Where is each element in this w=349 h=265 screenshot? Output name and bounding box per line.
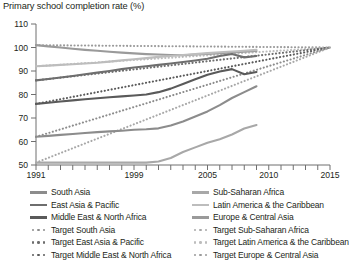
chart-title: Primary school completion rate (%) (3, 1, 144, 11)
data-line (36, 69, 257, 104)
legend-item[interactable]: Europe & Central Asia (192, 211, 349, 224)
y-axis: 5060708090100110 (14, 19, 36, 170)
legend-column-right: Sub-Saharan AfricaLatin America & the Ca… (192, 186, 349, 262)
legend-item[interactable]: Target East Asia & Pacific (30, 236, 171, 249)
legend-item-label: South Asia (47, 186, 90, 199)
plot-area: 5060708090100110 19911999200520102015 (0, 14, 341, 178)
x-tick-label: 1999 (124, 170, 143, 178)
legend-line-swatch-icon (30, 186, 47, 199)
x-tick-label: 2005 (198, 170, 217, 178)
legend-item[interactable]: Target Europe & Central Asia (192, 249, 349, 262)
y-tick-label: 110 (14, 19, 28, 29)
legend-item-label: Latin America & the Caribbean (209, 199, 324, 212)
x-axis-ticks: 19911999200520102015 (26, 165, 339, 178)
legend-item-label: Target Europe & Central Asia (209, 249, 318, 262)
legend-item[interactable]: Middle East & North Africa (30, 211, 171, 224)
y-axis-ticks: 5060708090100110 (14, 19, 36, 170)
chart-legend: South AsiaEast Asia & PacificMiddle East… (0, 186, 341, 265)
y-tick-label: 50 (18, 160, 28, 170)
y-tick-label: 100 (14, 43, 29, 53)
legend-dotted-swatch-icon (30, 236, 47, 249)
x-tick-label: 2015 (320, 170, 339, 178)
target-line (36, 45, 330, 47)
legend-item-label: Target East Asia & Pacific (47, 236, 144, 249)
legend-item[interactable]: Latin America & the Caribbean (192, 199, 349, 212)
legend-item-label: Target Sub-Saharan Africa (209, 224, 309, 237)
y-tick-label: 70 (18, 113, 28, 123)
legend-dotted-swatch-icon (192, 249, 209, 262)
y-tick-label: 60 (18, 137, 28, 147)
data-line (36, 45, 257, 55)
legend-item[interactable]: East Asia & Pacific (30, 199, 171, 212)
legend-dotted-swatch-icon (192, 224, 209, 237)
legend-item-label: East Asia & Pacific (47, 199, 119, 212)
legend-dotted-swatch-icon (30, 249, 47, 262)
y-tick-label: 90 (18, 66, 28, 76)
y-tick-label: 80 (18, 90, 28, 100)
legend-item[interactable]: South Asia (30, 186, 171, 199)
legend-dotted-swatch-icon (192, 236, 209, 249)
x-tick-label: 1991 (26, 170, 45, 178)
legend-line-swatch-icon (192, 211, 209, 224)
legend-item-label: Target Latin America & the Caribbean (209, 236, 349, 249)
legend-line-swatch-icon (192, 186, 209, 199)
x-axis: 19911999200520102015 (26, 165, 339, 178)
target-line (36, 48, 330, 137)
legend-item[interactable]: Target Sub-Saharan Africa (192, 224, 349, 237)
legend-item-label: Sub-Saharan Africa (209, 186, 284, 199)
legend-item-label: Target Middle East & North Africa (47, 249, 171, 262)
legend-line-swatch-icon (30, 211, 47, 224)
x-tick-label: 2010 (259, 170, 278, 178)
legend-item-label: Europe & Central Asia (209, 211, 293, 224)
legend-line-swatch-icon (192, 199, 209, 212)
legend-column-left: South AsiaEast Asia & PacificMiddle East… (30, 186, 171, 262)
line-chart-svg: 5060708090100110 19911999200520102015 (0, 14, 341, 178)
legend-item[interactable]: Target Latin America & the Caribbean (192, 236, 349, 249)
legend-dotted-swatch-icon (30, 224, 47, 237)
legend-line-swatch-icon (30, 199, 47, 212)
legend-item-label: Target South Asia (47, 224, 115, 237)
data-line (36, 125, 257, 163)
data-line (36, 50, 257, 66)
legend-item[interactable]: Sub-Saharan Africa (192, 186, 349, 199)
legend-item[interactable]: Target South Asia (30, 224, 171, 237)
legend-item[interactable]: Target Middle East & North Africa (30, 249, 171, 262)
legend-item-label: Middle East & North Africa (47, 211, 146, 224)
